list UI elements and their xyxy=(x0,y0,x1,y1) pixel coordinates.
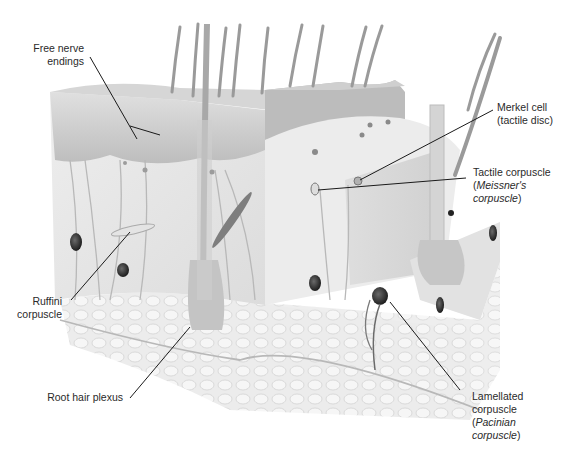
label-ruffini-corpuscle: Ruffini corpuscle xyxy=(10,295,62,321)
label-lamellated-corpuscle: Lamellated corpuscle (Pacinian corpuscle… xyxy=(472,390,568,442)
dermis-left-block xyxy=(50,84,270,305)
label-root-hair-plexus: Root hair plexus xyxy=(20,391,123,404)
tactile-corpuscle-shape xyxy=(311,183,319,195)
label-free-nerve-endings: Free nerve endings xyxy=(10,42,84,68)
label-merkel-cell: Merkel cell (tactile disc) xyxy=(497,101,569,127)
label-tactile-corpuscle: Tactile corpuscle (Meissner's corpuscle) xyxy=(473,166,569,205)
